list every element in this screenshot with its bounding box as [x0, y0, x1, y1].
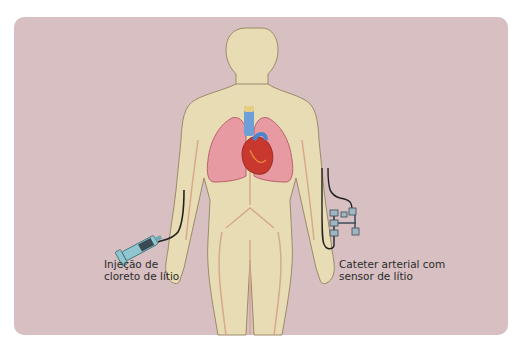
catheter-label-line2: sensor de lítio [339, 270, 445, 282]
lithium-sensor [330, 208, 359, 236]
trachea [244, 106, 254, 136]
injection-label-line1: Injeção de [104, 258, 179, 270]
catheter-label: Cateter arterial com sensor de lítio [339, 258, 445, 282]
body-diagram [0, 0, 523, 347]
injection-label: Injeção de cloreto de lítio [104, 258, 179, 282]
injection-label-line2: cloreto de lítio [104, 270, 179, 282]
catheter-label-line1: Cateter arterial com [339, 258, 445, 270]
